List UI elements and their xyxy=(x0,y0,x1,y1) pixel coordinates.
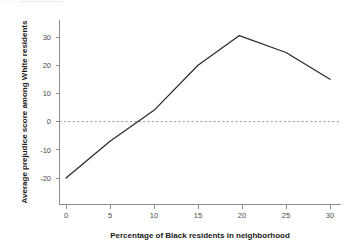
x-axis-title: Percentage of Black residents in neighbo… xyxy=(110,231,290,240)
x-tick-label: 15 xyxy=(194,211,202,220)
x-tick-label: 5 xyxy=(108,211,112,220)
x-axis-tick-labels: 0 5 10 15 20 25 30 xyxy=(64,211,334,220)
y-tick-label: -20 xyxy=(40,174,51,183)
chart-canvas: 30 20 10 0 -10 -20 0 5 10 15 20 25 30 xyxy=(0,0,348,247)
y-tick-label: 30 xyxy=(43,33,51,42)
x-axis-ticks xyxy=(66,205,330,209)
y-axis-ticks xyxy=(56,37,60,178)
y-axis-tick-labels: 30 20 10 0 -10 -20 xyxy=(40,33,51,183)
y-axis-title: Average prejudice score among White resi… xyxy=(20,20,29,203)
data-series-line xyxy=(66,36,330,178)
y-tick-label: 10 xyxy=(43,89,51,98)
x-tick-label: 30 xyxy=(326,211,334,220)
axis-frame xyxy=(60,20,342,205)
y-tick-label: -10 xyxy=(40,146,51,155)
y-tick-label: 20 xyxy=(43,61,51,70)
y-tick-label: 0 xyxy=(47,117,51,126)
x-tick-label: 25 xyxy=(282,211,290,220)
x-tick-label: 20 xyxy=(238,211,246,220)
x-tick-label: 10 xyxy=(150,211,158,220)
x-tick-label: 0 xyxy=(64,211,68,220)
prejudice-score-line-chart: · · · · —————— · 30 20 10 xyxy=(0,0,348,247)
